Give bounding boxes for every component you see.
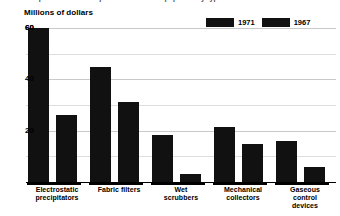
category-rule <box>151 183 205 185</box>
category-rule <box>213 183 267 185</box>
bar-1971 <box>152 135 173 182</box>
legend-item-1971: 1971 <box>206 18 255 27</box>
y-axis-tick-label: 20 <box>12 127 34 135</box>
plot-area <box>26 28 336 182</box>
bar-group <box>274 28 336 182</box>
y-axis-title: Millions of dollars <box>24 8 93 17</box>
bar-1967 <box>118 102 139 182</box>
bar-1971 <box>214 127 235 182</box>
chart-legend: 1971 1967 <box>206 18 310 27</box>
bar-group <box>150 28 212 182</box>
bar-1967 <box>180 174 201 182</box>
y-axis-tick-label: 60 <box>12 24 34 32</box>
legend-label-1971: 1971 <box>238 19 255 27</box>
legend-swatch-1971 <box>206 18 234 27</box>
category-rule <box>27 183 81 185</box>
category-label-line: precipitators <box>20 194 94 202</box>
category-rule <box>89 183 143 185</box>
bar-chart: Millions of dollars 1971 1967 20406060El… <box>0 0 340 216</box>
bar-group <box>88 28 150 182</box>
category-label-line: control <box>268 194 340 202</box>
bar-1971 <box>276 141 297 182</box>
bar-1971 <box>28 28 49 182</box>
legend-label-1967: 1967 <box>294 19 311 27</box>
bar-1967 <box>242 144 263 183</box>
y-axis-tick-label: 40 <box>12 75 34 83</box>
category-label: Gaseouscontroldevices <box>268 186 340 210</box>
category-rule <box>275 183 329 185</box>
legend-item-1967: 1967 <box>262 18 311 27</box>
bar-1971 <box>90 67 111 183</box>
bar-1967 <box>56 115 77 182</box>
bar-group <box>212 28 274 182</box>
bar-1967 <box>304 167 325 182</box>
category-label-line: Gaseous <box>268 186 340 194</box>
bar-group <box>26 28 88 182</box>
legend-swatch-1967 <box>262 18 290 27</box>
category-label-line: devices <box>268 202 340 210</box>
